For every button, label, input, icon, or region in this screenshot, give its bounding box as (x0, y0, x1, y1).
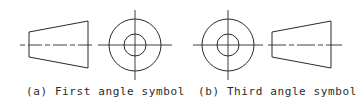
first-angle-trapezoid (29, 21, 88, 68)
third-angle-symbol (193, 10, 342, 80)
first-angle-symbol (20, 10, 172, 80)
third-angle-trapezoid (272, 21, 331, 68)
third-angle-caption: (b) Third angle symbol (198, 85, 357, 98)
first-angle-caption: (a) First angle symbol (26, 85, 185, 98)
